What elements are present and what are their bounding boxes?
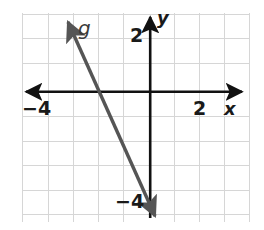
x-axis-tick-label-2: 2 [193,99,206,118]
line-g-label: g [78,18,91,38]
coordinate-plane-figure: −4 2 2 −4 x y g [0,0,264,230]
y-axis-name-label: y [157,9,169,27]
y-axis-tick-label-negative-4: −4 [115,192,144,211]
x-axis-tick-label-negative-4: −4 [22,99,51,118]
y-axis-tick-label-2: 2 [130,26,143,45]
x-axis-name-label: x [224,100,236,118]
